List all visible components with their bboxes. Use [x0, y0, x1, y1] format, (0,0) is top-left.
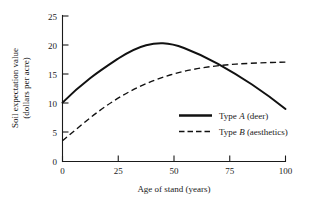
y-tick-label: 15	[48, 70, 58, 80]
y-axis-title-line1: Soil expectation value	[10, 48, 20, 128]
x-tick-label: 75	[225, 166, 235, 176]
y-tick-label: 25	[48, 12, 58, 22]
y-tick-label: 10	[48, 99, 58, 109]
legend-label-type-a-suffix: (deer)	[245, 111, 269, 121]
chart-canvas: 25 20 15 10 5 0 0 25 50 75 100 Age of st…	[0, 0, 320, 207]
series-line-type-a	[63, 43, 286, 109]
x-tick-label: 100	[279, 166, 293, 176]
x-tick-label: 0	[60, 166, 65, 176]
y-axis-tick-labels: 25 20 15 10 5 0	[48, 12, 58, 167]
legend-label-type-b-prefix: Type	[219, 127, 239, 137]
x-axis-ticks	[63, 156, 286, 162]
legend-label-type-a: Type A (deer)	[219, 111, 268, 121]
y-tick-label: 0	[53, 157, 58, 167]
chart-legend: Type A (deer) Type B (aesthetics)	[179, 111, 288, 137]
x-axis-title: Age of stand (years)	[137, 184, 210, 194]
y-tick-label: 20	[48, 41, 58, 51]
y-tick-label: 5	[53, 128, 58, 138]
chart-figure: 25 20 15 10 5 0 0 25 50 75 100 Age of st…	[0, 0, 320, 207]
y-axis-ticks	[63, 16, 69, 132]
legend-label-type-a-prefix: Type	[219, 111, 239, 121]
y-axis-title-line2: (dollars per acre)	[21, 57, 31, 118]
legend-label-type-b: Type B (aesthetics)	[219, 127, 288, 137]
x-tick-label: 25	[114, 166, 124, 176]
x-tick-label: 50	[170, 166, 180, 176]
x-axis-tick-labels: 0 25 50 75 100	[60, 166, 293, 176]
legend-label-type-b-suffix: (aesthetics)	[245, 127, 288, 137]
